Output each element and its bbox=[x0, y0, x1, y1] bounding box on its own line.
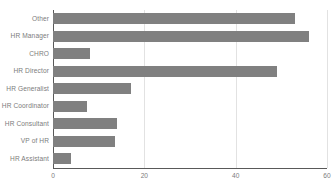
category-label: HR Consultant bbox=[0, 120, 49, 128]
category-label: Other bbox=[0, 15, 49, 23]
bar-chart: OtherHR ManagerCHROHR DirectorHR General… bbox=[0, 0, 332, 186]
bar-row bbox=[53, 80, 327, 98]
bar bbox=[53, 136, 115, 147]
category-label: VP of HR bbox=[0, 137, 49, 145]
category-label: HR Manager bbox=[0, 32, 49, 40]
bar bbox=[53, 48, 90, 59]
bar bbox=[53, 13, 295, 24]
x-tick-label: 0 bbox=[51, 172, 55, 180]
category-axis-labels: OtherHR ManagerCHROHR DirectorHR General… bbox=[0, 10, 49, 168]
bar-row bbox=[53, 115, 327, 133]
category-label: HR Director bbox=[0, 67, 49, 75]
x-axis-line bbox=[53, 168, 327, 169]
bar-row bbox=[53, 63, 327, 81]
bar bbox=[53, 31, 309, 42]
category-label: HR Coordinator bbox=[0, 102, 49, 110]
bar bbox=[53, 83, 131, 94]
gridline-60 bbox=[327, 10, 328, 168]
bar-row bbox=[53, 45, 327, 63]
bar bbox=[53, 101, 87, 112]
bars-layer bbox=[53, 10, 327, 168]
bar bbox=[53, 153, 71, 164]
bar bbox=[53, 66, 277, 77]
x-tick-label: 20 bbox=[141, 172, 148, 180]
bar-row bbox=[53, 10, 327, 28]
x-tick-label: 60 bbox=[323, 172, 330, 180]
bar bbox=[53, 118, 117, 129]
bar-row bbox=[53, 98, 327, 116]
plot-area bbox=[53, 10, 327, 168]
category-label: HR Generalist bbox=[0, 85, 49, 93]
bar-row bbox=[53, 150, 327, 168]
bar-row bbox=[53, 133, 327, 151]
bar-row bbox=[53, 28, 327, 46]
x-tick-label: 40 bbox=[232, 172, 239, 180]
category-label: HR Assistant bbox=[0, 155, 49, 163]
category-label: CHRO bbox=[0, 50, 49, 58]
x-axis-tick-labels: 0204060 bbox=[0, 172, 332, 184]
